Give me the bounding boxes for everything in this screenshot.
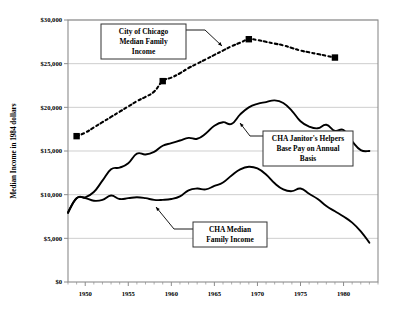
y-tick-label: $25,000 [41, 60, 63, 67]
x-tick-label: 1980 [337, 290, 351, 297]
callout-leader-line [156, 207, 193, 229]
y-tick-label: $30,000 [41, 16, 63, 23]
callout-text-line: Basis [300, 154, 317, 163]
series-marker-0 [160, 78, 166, 84]
y-axis-title-text: Median Income in 1984 dollars [10, 103, 18, 198]
chart-container: $0$5,000$10,000$15,000$20,000$25,000$30,… [0, 0, 412, 317]
x-tick-label: 1950 [79, 290, 93, 297]
x-tick-label: 1965 [208, 290, 222, 297]
y-tick-label: $20,000 [41, 104, 63, 111]
callout-text-line: CHA Janitor's Helpers [272, 134, 344, 143]
annotation-callouts: City of ChicagoMedian FamilyIncomeCHA Ja… [101, 24, 353, 247]
callout-text-line: Income [132, 47, 156, 56]
callout-text-line: Median Family [119, 37, 168, 46]
y-axis-title: Median Income in 1984 dollars [10, 103, 18, 198]
income-line-chart: $0$5,000$10,000$15,000$20,000$25,000$30,… [0, 0, 412, 317]
series-marker-0 [246, 36, 252, 42]
x-tick-label: 1960 [165, 290, 179, 297]
callout-text-line: CHA Median [209, 225, 251, 234]
series-marker-0 [332, 54, 338, 60]
series-marker-0 [73, 133, 79, 139]
callout-leader-line [186, 30, 222, 46]
callout-text-line: City of Chicago [119, 27, 169, 36]
x-tick-label: 1955 [122, 290, 136, 297]
callout-text-line: Family Income [206, 235, 254, 244]
x-tick-label: 1970 [251, 290, 265, 297]
x-tick-label: 1975 [294, 290, 308, 297]
y-tick-label: $10,000 [41, 191, 63, 198]
y-tick-label: $0 [55, 278, 62, 285]
y-tick-label: $15,000 [41, 147, 63, 154]
callout-text-line: Base Pay on Annual [276, 144, 339, 153]
y-tick-label: $5,000 [44, 235, 63, 242]
